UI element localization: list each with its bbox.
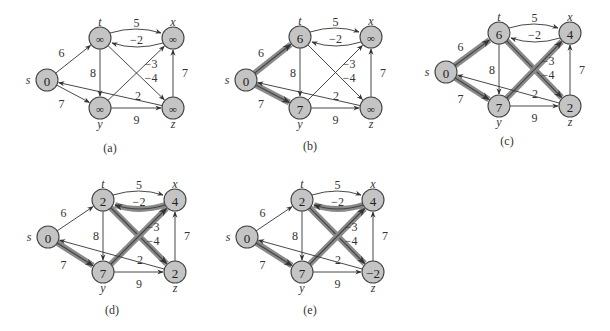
panel-b: 675−28−4−39720s6t∞x7y∞z(b) (225, 14, 386, 153)
weight-label-x-t: −2 (528, 28, 541, 42)
weight-label-s-t: 6 (260, 206, 266, 220)
panel-caption: (b) (303, 139, 317, 153)
weight-label-y-x: −3 (345, 220, 358, 234)
weight-label-y-x: −3 (542, 54, 555, 68)
node-value-y: 7 (297, 102, 304, 117)
weight-label-z-s: 2 (135, 89, 141, 103)
node-z: −2z (362, 261, 384, 295)
node-value-z: ∞ (367, 103, 375, 115)
node-value-s: 0 (44, 74, 51, 89)
weight-label-s-y: 7 (59, 97, 65, 111)
node-x: 4x (164, 177, 186, 211)
weight-label-y-z: 9 (136, 277, 142, 291)
weight-label-x-t: −2 (329, 32, 342, 46)
node-label-s: s (26, 73, 31, 87)
weight-label-x-t: −2 (133, 195, 146, 209)
panel-caption: (c) (500, 134, 513, 148)
weight-label-t-y: 8 (90, 66, 96, 80)
weight-label-s-t: 6 (59, 46, 65, 60)
weight-label-s-y: 7 (61, 258, 67, 272)
node-y: 7y (488, 95, 510, 129)
node-value-y: ∞ (96, 103, 104, 115)
node-value-s: 0 (243, 74, 250, 89)
node-value-s: 0 (45, 231, 52, 246)
weight-label-t-y: 8 (489, 63, 495, 77)
weight-label-t-x: 5 (335, 178, 341, 192)
node-value-z: 2 (172, 266, 179, 281)
panel-caption: (a) (103, 141, 116, 155)
panel-d: 675−28−4−39720s2t4x7y2z(d) (27, 177, 190, 317)
node-z: ∞z (162, 97, 184, 131)
node-t: 2t (291, 177, 313, 211)
node-t: 6t (488, 10, 510, 44)
weight-label-z-x: 7 (579, 63, 585, 77)
node-t: ∞t (89, 15, 111, 49)
node-y: 7y (289, 97, 311, 131)
weight-label-y-z: 9 (333, 113, 339, 127)
node-label-y: y (495, 115, 502, 129)
bellman-ford-figure: 675−28−4−39720s∞t∞x∞y∞z(a)675−28−4−39720… (0, 0, 610, 331)
weight-label-t-y: 8 (292, 229, 298, 243)
weight-label-z-x: 7 (184, 229, 190, 243)
weight-label-z-x: 7 (380, 66, 386, 80)
weight-label-z-s: 2 (335, 253, 341, 267)
node-value-y: 7 (496, 100, 503, 115)
panel-caption: (e) (303, 303, 316, 317)
node-value-s: 0 (244, 231, 251, 246)
weight-label-t-z: −4 (145, 71, 158, 85)
node-value-x: ∞ (169, 33, 177, 45)
node-s: 0s (27, 226, 59, 248)
node-value-y: 7 (100, 266, 107, 281)
node-label-y: y (96, 117, 103, 131)
node-z: 2z (559, 95, 581, 129)
node-label-x: x (171, 177, 178, 191)
node-value-y: 7 (299, 266, 306, 281)
panel-e: 675−28−4−39720s2t4x7y−2z(e) (226, 177, 388, 317)
node-s: 0s (226, 226, 258, 248)
weight-label-z-s: 2 (333, 89, 339, 103)
node-value-x: 4 (370, 194, 377, 209)
weight-label-t-x: 5 (333, 15, 339, 29)
node-y: 7y (291, 261, 313, 295)
weight-label-z-x: 7 (382, 229, 388, 243)
weight-label-t-x: 5 (134, 16, 140, 30)
weight-label-x-t: −2 (331, 195, 344, 209)
node-label-z: z (170, 117, 176, 131)
node-x: 4x (362, 177, 384, 211)
panel-a: 675−28−4−39720s∞t∞x∞y∞z(a) (26, 15, 188, 155)
weight-label-t-z: −4 (147, 234, 160, 248)
node-x: 4x (559, 10, 581, 44)
weight-label-z-s: 2 (532, 87, 538, 101)
node-value-t: 6 (297, 31, 304, 46)
weight-label-s-t: 6 (258, 46, 264, 60)
node-value-t: ∞ (96, 33, 104, 45)
node-label-x: x (566, 10, 573, 24)
node-label-s: s (425, 65, 430, 79)
node-z: ∞z (360, 97, 382, 131)
node-value-z: −2 (366, 266, 380, 281)
weight-label-y-x: −3 (147, 220, 160, 234)
node-value-t: 2 (299, 194, 306, 209)
weight-label-s-t: 6 (458, 40, 464, 54)
node-s: 0s (26, 69, 58, 91)
weight-label-t-z: −4 (345, 234, 358, 248)
weight-label-s-y: 7 (458, 92, 464, 106)
node-label-z: z (172, 281, 178, 295)
weight-label-z-x: 7 (182, 66, 188, 80)
weight-label-y-x: −3 (343, 57, 356, 71)
node-value-t: 6 (496, 27, 503, 42)
node-s: 0s (225, 69, 257, 91)
weight-label-t-y: 8 (290, 66, 296, 80)
weight-label-s-y: 7 (258, 97, 264, 111)
weight-label-y-z: 9 (134, 113, 140, 127)
panel-caption: (d) (105, 303, 119, 317)
weight-label-t-x: 5 (136, 178, 142, 192)
node-value-t: 2 (100, 194, 107, 209)
node-value-x: ∞ (367, 32, 375, 44)
node-value-x: 4 (567, 27, 574, 42)
weight-label-x-t: −2 (130, 33, 143, 47)
node-label-y: y (99, 281, 106, 295)
node-value-z: ∞ (169, 103, 177, 115)
node-label-s: s (226, 230, 231, 244)
node-value-x: 4 (172, 194, 179, 209)
